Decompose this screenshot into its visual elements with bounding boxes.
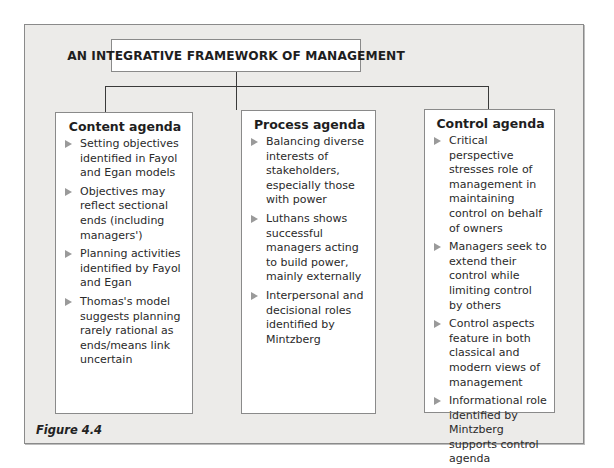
list-item: Balancing diverse interests of stakehold… [250,135,369,208]
list-item: Thomas's model suggests planning rarely … [64,295,186,368]
connector-right [488,86,489,109]
list-item: Critical perspective stresses role of ma… [433,134,548,236]
list-item: Planning activities identified by Fayol … [64,247,186,291]
connector-trunk [236,72,237,87]
process-agenda-list: Balancing diverse interests of stakehold… [250,135,369,347]
triangle-bullet-icon [65,140,72,148]
connector-left [105,86,106,113]
triangle-bullet-icon [434,320,441,328]
content-agenda-box: Content agenda Setting objectives identi… [55,112,193,414]
list-item: Interpersonal and decisional roles ident… [250,289,369,347]
process-agenda-box: Process agenda Balancing diverse interes… [241,110,376,414]
triangle-bullet-icon [434,243,441,251]
list-item: Managers seek to extend their control wh… [433,240,548,313]
list-item: Objectives may reflect sectional ends (i… [64,185,186,243]
list-item: Luthans shows successful managers acting… [250,212,369,285]
triangle-bullet-icon [251,292,258,300]
triangle-bullet-icon [251,138,258,146]
list-item: Informational role identified by Mintzbe… [433,394,548,467]
control-agenda-list: Critical perspective stresses role of ma… [433,134,548,467]
triangle-bullet-icon [434,137,441,145]
triangle-bullet-icon [251,215,258,223]
connector-horizontal [105,86,489,87]
framework-title-box: AN INTEGRATIVE FRAMEWORK OF MANAGEMENT [111,39,361,72]
content-agenda-list: Setting objectives identified in Fayol a… [64,137,186,368]
connector-middle [236,86,237,110]
triangle-bullet-icon [65,250,72,258]
list-item: Control aspects feature in both classica… [433,317,548,390]
control-agenda-box: Control agenda Critical perspective stre… [424,109,555,413]
figure-label: Figure 4.4 [36,423,102,437]
process-agenda-heading: Process agenda [250,117,369,132]
content-agenda-heading: Content agenda [64,119,186,134]
triangle-bullet-icon [65,298,72,306]
control-agenda-heading: Control agenda [433,116,548,131]
framework-title: AN INTEGRATIVE FRAMEWORK OF MANAGEMENT [67,49,405,63]
list-item: Setting objectives identified in Fayol a… [64,137,186,181]
triangle-bullet-icon [434,397,441,405]
triangle-bullet-icon [65,188,72,196]
